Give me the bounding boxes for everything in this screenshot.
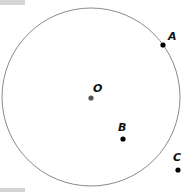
- point-c: [175, 167, 180, 172]
- circle-diagram: O A B C: [0, 0, 188, 192]
- label-a: A: [167, 30, 177, 43]
- label-c: C: [173, 151, 181, 164]
- point-o: [88, 95, 93, 100]
- point-b: [120, 136, 125, 141]
- point-a: [160, 42, 165, 47]
- label-o: O: [93, 82, 102, 95]
- label-b: B: [118, 121, 126, 134]
